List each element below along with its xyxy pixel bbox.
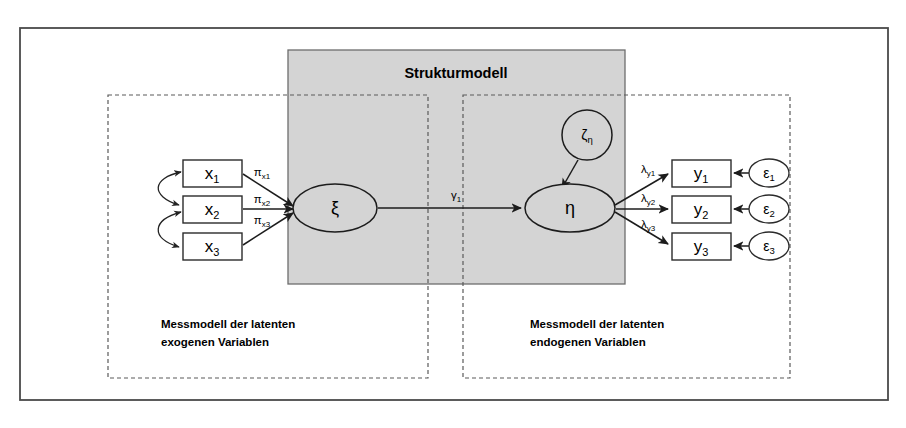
loading-label-lambda-y3: λy3 (641, 218, 656, 233)
exogenous-caption-line1: Messmodell der latenten (161, 318, 295, 330)
loading-label-lambda-y1: λy1 (641, 163, 656, 178)
loading-label-pi-x3: πx3 (254, 214, 271, 229)
latent-label-xi: ξ (331, 198, 339, 218)
endogenous-caption-line2: endogenen Variablen (530, 336, 646, 348)
latent-label-eta: η (565, 198, 575, 218)
diagram-canvas: Strukturmodell x1 x2 x3 πx1 πx2 πx3 ξ γ1… (0, 0, 906, 428)
loading-label-pi-x1: πx1 (254, 166, 271, 181)
loading-label-pi-x2: πx2 (254, 193, 271, 208)
endogenous-caption-line1: Messmodell der latenten (530, 318, 664, 330)
correlation-arc-x1-x2 (158, 172, 181, 205)
sem-diagram: Strukturmodell x1 x2 x3 πx1 πx2 πx3 ξ γ1… (0, 0, 906, 428)
exogenous-caption-line2: exogenen Variablen (161, 336, 269, 348)
structural-panel-title: Strukturmodell (404, 65, 507, 81)
loading-label-lambda-y2: λy2 (641, 192, 656, 207)
correlation-arc-x2-x3 (158, 212, 181, 247)
